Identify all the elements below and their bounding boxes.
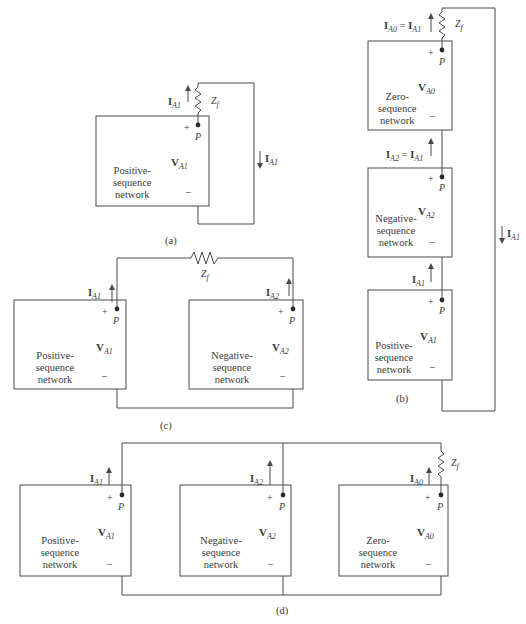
- caption-b: (b): [396, 393, 408, 404]
- series-loop-wire: [439, 8, 495, 411]
- node-p: P: [279, 501, 285, 512]
- impedance-label-zf: Zf: [211, 95, 219, 110]
- node-p: P: [118, 501, 124, 512]
- node-p: P: [439, 182, 445, 193]
- return-current-label-ia1: IA1: [265, 153, 278, 168]
- network-name-negative: Negative- sequence network: [196, 535, 246, 571]
- minus-sign: –: [430, 110, 435, 121]
- network-name-zero: Zero- sequence network: [378, 91, 416, 127]
- fault-loop-wire: [195, 83, 254, 224]
- impedance-label-zf: Zf: [201, 268, 209, 283]
- voltage-va2: VA2: [259, 527, 276, 542]
- voltage-va0: VA0: [417, 527, 434, 542]
- minus-sign: –: [102, 370, 107, 381]
- minus-sign: –: [107, 558, 112, 569]
- minus-sign: –: [426, 558, 431, 569]
- plus-sign: +: [278, 306, 284, 317]
- return-current-label-ia1: IA1: [507, 228, 520, 243]
- node-p: P: [289, 315, 295, 326]
- current-label-ia1: IA1: [90, 473, 103, 488]
- impedance-label-zf: Zf: [451, 457, 459, 472]
- plus-sign: +: [102, 306, 108, 317]
- node-p: P: [439, 56, 445, 67]
- plus-sign: +: [267, 492, 273, 503]
- plus-sign: +: [428, 296, 434, 307]
- plus-sign: +: [425, 492, 431, 503]
- network-name-negative: Negative- sequence network: [207, 350, 257, 386]
- network-name-positive: Positive- sequence network: [33, 350, 77, 386]
- bottom-bus-wire: [122, 576, 441, 595]
- minus-sign: –: [268, 558, 273, 569]
- node-p: P: [113, 315, 119, 326]
- network-name: Positive- sequence network: [113, 165, 151, 201]
- node-p: P: [437, 501, 443, 512]
- current-label-ia2: IA2: [266, 287, 279, 302]
- voltage-va0: VA0: [418, 82, 435, 97]
- plus-sign: +: [428, 173, 434, 184]
- current-label-ia0-eq-ia1: IA0 = IA1: [384, 20, 421, 35]
- voltage-va1: VA1: [171, 157, 188, 172]
- voltage-va1: VA1: [98, 527, 115, 542]
- node-p: P: [195, 131, 201, 142]
- network-name-negative: Negative- sequence network: [360, 213, 432, 249]
- network-name-positive: Positive- sequence network: [38, 535, 82, 571]
- current-label-ia2: IA2: [250, 473, 263, 488]
- minus-sign: –: [430, 361, 435, 372]
- impedance-label-zf: Zf: [455, 18, 463, 33]
- minus-sign: –: [430, 236, 435, 247]
- current-label-ia0: IA0: [410, 473, 423, 488]
- voltage-va2: VA2: [272, 342, 289, 357]
- node-p: P: [439, 305, 445, 316]
- current-label-ia2-eq-ia1: IA2 = IA1: [386, 149, 423, 164]
- plus-sign: +: [184, 122, 190, 133]
- current-label-ia1: IA1: [168, 96, 181, 111]
- plus-sign: +: [107, 492, 113, 503]
- caption-d: (d): [276, 605, 288, 616]
- return-wire: [117, 389, 293, 408]
- plus-sign: +: [428, 47, 434, 58]
- minus-sign: –: [186, 186, 191, 197]
- panel-d-wiring: [20, 443, 448, 595]
- minus-sign: –: [280, 370, 285, 381]
- caption-c: (c): [160, 420, 172, 431]
- network-name-zero: Zero- sequence network: [357, 535, 399, 571]
- network-name-positive: Positive- sequence network: [358, 340, 430, 376]
- caption-a: (a): [165, 235, 177, 246]
- current-label-ia1: IA1: [88, 287, 101, 302]
- voltage-va1: VA1: [96, 342, 113, 357]
- current-label-ia1: IA1: [412, 274, 425, 289]
